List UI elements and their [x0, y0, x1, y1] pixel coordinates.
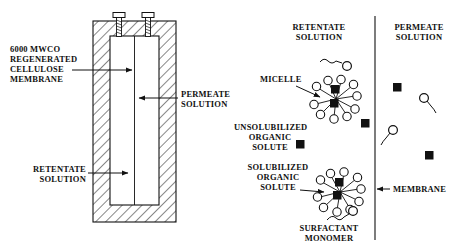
solubilized-solute-square [335, 178, 344, 187]
retentate-monomer [327, 207, 357, 220]
label-retentate-solution: RETENTATE SOLUTION [283, 22, 355, 42]
solubilized-solute-square [333, 191, 342, 200]
permeate-solute-square [393, 83, 402, 92]
label-unsolubilized-organic-solute: UNSOLUBILIZED ORGANIC SOLUTE [234, 122, 306, 152]
label-surfactant-monomer: SURFACTANT MONOMER [290, 223, 368, 243]
label-membrane: MEMBRANE [393, 184, 459, 194]
retentate-monomer [320, 59, 351, 70]
unsolubilized-solute-square [361, 119, 370, 128]
label-cell-retentate-solution: RETENTATE SOLUTION [14, 164, 86, 184]
label-membrane-spec: 6000 MWCO REGENERATED CELLULOSE MEMBRANE [10, 44, 72, 84]
figure-canvas: 6000 MWCO REGENERATED CELLULOSE MEMBRANE… [0, 0, 463, 252]
micelle-top [310, 75, 361, 123]
permeate-monomer [381, 126, 397, 145]
permeate-monomer [420, 94, 436, 113]
ultrafiltration-cell [72, 13, 178, 223]
label-cell-permeate-solution: PERMEATE SOLUTION [181, 89, 241, 109]
solubilized-solute-square [330, 99, 339, 108]
label-solubilized-organic-solute: SOLUBILIZED ORGANIC SOLUTE [245, 162, 311, 192]
label-permeate-solution: PERMEATE SOLUTION [384, 22, 454, 42]
solubilized-solute-square [331, 85, 340, 94]
mechanism-schematic [296, 16, 436, 240]
permeate-solute-square [425, 151, 434, 160]
label-micelle: MICELLE [260, 74, 310, 84]
